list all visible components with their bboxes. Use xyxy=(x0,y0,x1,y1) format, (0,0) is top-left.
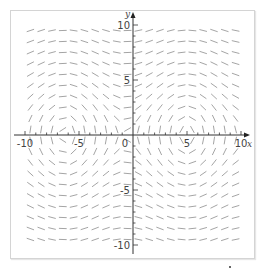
slope-segment xyxy=(191,126,194,132)
slope-segment xyxy=(70,239,77,240)
slope-segment xyxy=(27,216,33,219)
slope-segment xyxy=(233,160,239,164)
slope-segment xyxy=(146,84,152,88)
slope-segment xyxy=(200,51,207,53)
x-axis-arrow-icon xyxy=(244,133,250,138)
slope-segment xyxy=(167,41,174,43)
slope-segment xyxy=(212,160,216,166)
slope-segment xyxy=(103,73,109,76)
slope-segment xyxy=(146,238,153,240)
slope-segment xyxy=(28,171,33,176)
slope-segment xyxy=(233,172,239,175)
slope-segment xyxy=(200,216,207,218)
slope-segment xyxy=(125,128,131,132)
slope-segment xyxy=(168,194,174,197)
slope-segment xyxy=(168,183,174,186)
slope-segment xyxy=(59,173,66,174)
slope-segment xyxy=(124,118,131,119)
slope-segment xyxy=(49,172,55,175)
slope-segment xyxy=(235,126,237,133)
slope-segment xyxy=(189,239,196,240)
slope-segment xyxy=(232,194,239,196)
slope-segment xyxy=(179,150,185,154)
slope-segment xyxy=(114,149,119,154)
stray-mark xyxy=(229,266,231,268)
slope-segment xyxy=(135,95,141,98)
slope-segment xyxy=(49,105,54,109)
slope-segment xyxy=(116,137,118,144)
slope-segment xyxy=(200,84,206,87)
slope-segment xyxy=(211,29,218,31)
slope-segment xyxy=(135,239,142,240)
slope-segment xyxy=(178,239,185,240)
slope-segment xyxy=(93,171,98,176)
slope-segment xyxy=(116,126,118,133)
slope-segment xyxy=(158,105,162,111)
slope-segment xyxy=(49,62,56,64)
slope-segment xyxy=(178,52,185,53)
slope-segment xyxy=(179,117,185,121)
slope-segment xyxy=(189,228,196,229)
slope-segment xyxy=(27,227,34,229)
slope-segment xyxy=(211,205,217,208)
slope-segment xyxy=(178,217,185,218)
slope-segment xyxy=(49,183,55,186)
slope-segment xyxy=(148,148,151,154)
slope-segment xyxy=(178,30,185,31)
slope-segment xyxy=(222,94,227,99)
slope-segment xyxy=(40,148,43,154)
slope-segment xyxy=(92,51,98,54)
slope-segment xyxy=(38,84,44,88)
slope-segment xyxy=(211,216,217,219)
slope-segment xyxy=(168,160,173,165)
slope-segment xyxy=(49,84,55,87)
slope-segment xyxy=(49,160,54,164)
slope-segment xyxy=(28,94,33,99)
slope-segment xyxy=(146,194,152,197)
slope-segment xyxy=(49,52,56,54)
slope-segment xyxy=(103,239,110,241)
slope-segment xyxy=(211,182,217,186)
slope-segment xyxy=(71,149,76,154)
slope-segment xyxy=(59,151,66,152)
slope-segment xyxy=(200,30,207,32)
slope-segment xyxy=(82,94,87,98)
slope-segment xyxy=(202,137,203,144)
slope-segment xyxy=(93,105,97,111)
slope-segment xyxy=(189,85,196,86)
slope-segment xyxy=(178,228,185,229)
slope-segment xyxy=(92,73,98,77)
slope-segment xyxy=(81,30,88,32)
slope-segment xyxy=(211,227,218,229)
slope-segment xyxy=(191,137,194,143)
slope-segment xyxy=(221,238,228,240)
slope-segment xyxy=(113,74,120,76)
slope-segment xyxy=(82,160,87,165)
slope-segment xyxy=(113,84,120,86)
slope-segment xyxy=(113,228,120,229)
slope-segment xyxy=(135,41,142,43)
slope-segment xyxy=(94,115,97,121)
slope-segment xyxy=(233,149,237,155)
slope-segment xyxy=(93,160,97,166)
slope-segment xyxy=(168,84,174,87)
slope-segment xyxy=(92,182,98,186)
slope-segment xyxy=(222,183,228,187)
slope-segment xyxy=(38,194,44,197)
slope-segment xyxy=(189,150,195,154)
slope-segment xyxy=(71,106,77,109)
slope-segment xyxy=(168,95,174,99)
slope-segment xyxy=(70,183,77,185)
slope-segment xyxy=(157,83,163,87)
slope-segment xyxy=(222,216,228,219)
slope-segment xyxy=(51,126,53,133)
slope-segment xyxy=(178,173,185,175)
slope-segment xyxy=(189,195,196,196)
slope-segment xyxy=(189,206,196,207)
slope-segment xyxy=(39,94,44,99)
slope-segment xyxy=(232,41,239,43)
x-tick-label: 5 xyxy=(184,138,190,149)
slope-segment xyxy=(92,194,98,198)
slope-segment xyxy=(49,194,56,196)
slope-segment xyxy=(27,205,33,208)
